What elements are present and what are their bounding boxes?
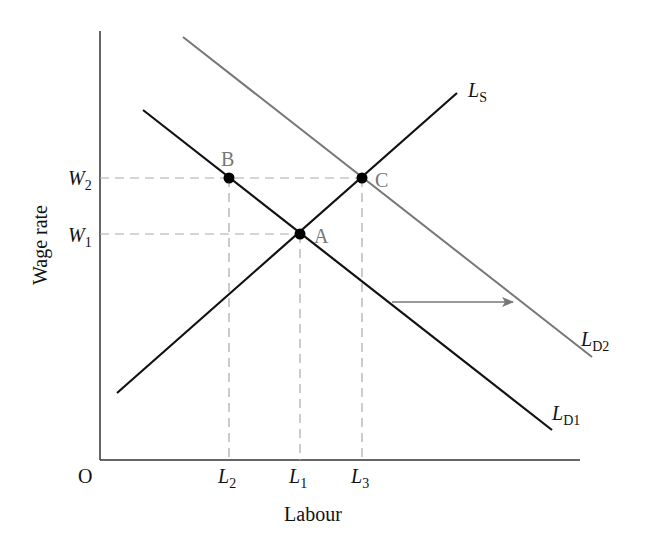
y-axis-title: Wage rate <box>29 205 52 285</box>
labour-market-diagram: A B C W2 W1 O L2 L1 L3 LS LD1 LD2 Wage r… <box>0 0 651 541</box>
demand-curve-ld2 <box>183 37 592 357</box>
point-c-label: C <box>375 169 388 191</box>
demand-curve-ld1 <box>143 110 552 430</box>
ls-curve-label: LS <box>467 79 487 105</box>
point-c-dot <box>357 173 368 184</box>
x-axis-title: Labour <box>284 503 342 525</box>
l3-tick-label: L3 <box>350 465 369 491</box>
point-a-label: A <box>314 225 329 247</box>
guide-lines <box>100 178 362 460</box>
point-b-dot <box>224 173 235 184</box>
l2-tick-label: L2 <box>217 465 236 491</box>
l1-tick-label: L1 <box>288 465 307 491</box>
w2-tick-label: W2 <box>68 167 92 193</box>
w1-tick-label: W1 <box>68 224 92 250</box>
point-a-dot <box>295 229 306 240</box>
ld1-curve-label: LD1 <box>551 402 580 428</box>
supply-curve-ls <box>117 93 457 393</box>
origin-label: O <box>78 465 92 487</box>
point-b-label: B <box>221 148 234 170</box>
